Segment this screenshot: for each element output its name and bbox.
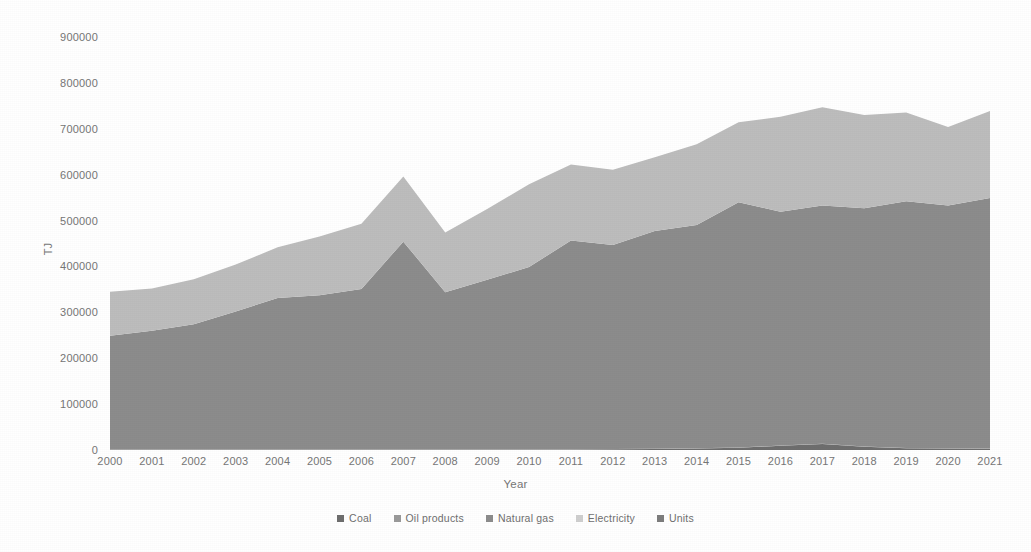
x-axis-title: Year — [0, 478, 1031, 490]
y-tick-label: 400000 — [60, 260, 98, 272]
x-tick-label: 2011 — [559, 455, 583, 467]
x-tick-label: 2016 — [768, 455, 793, 467]
x-tick-label: 2001 — [139, 455, 164, 467]
y-tick-label: 100000 — [60, 398, 98, 410]
x-axis-tick-labels: 2000200120022003200420052006200720082009… — [110, 455, 990, 473]
x-tick-label: 2020 — [935, 455, 960, 467]
legend-item-label: Units — [669, 512, 694, 524]
x-tick-label: 2004 — [265, 455, 290, 467]
plot-area — [110, 30, 990, 455]
legend-item-units[interactable]: Units — [657, 512, 694, 524]
legend-item-natural-gas[interactable]: Natural gas — [486, 512, 554, 524]
y-tick-label: 600000 — [60, 169, 98, 181]
x-tick-label: 2005 — [307, 455, 332, 467]
legend-item-label: Electricity — [588, 512, 635, 524]
legend-swatch-icon — [394, 515, 401, 522]
chart-legend: CoalOil productsNatural gasElectricityUn… — [0, 512, 1031, 524]
legend-swatch-icon — [657, 515, 664, 522]
x-tick-label: 2021 — [977, 455, 1002, 467]
x-tick-label: 2018 — [852, 455, 877, 467]
y-axis-title: TJ — [42, 234, 54, 264]
x-tick-label: 2003 — [223, 455, 248, 467]
x-tick-label: 2006 — [349, 455, 374, 467]
legend-item-oil-products[interactable]: Oil products — [394, 512, 464, 524]
legend-item-electricity[interactable]: Electricity — [576, 512, 635, 524]
legend-item-label: Coal — [349, 512, 371, 524]
y-tick-label: 800000 — [60, 77, 98, 89]
x-tick-label: 2000 — [97, 455, 122, 467]
y-tick-label: 500000 — [60, 215, 98, 227]
y-tick-label: 200000 — [60, 352, 98, 364]
legend-swatch-icon — [337, 515, 344, 522]
x-tick-label: 2014 — [684, 455, 709, 467]
x-tick-label: 2009 — [475, 455, 500, 467]
x-tick-label: 2012 — [600, 455, 625, 467]
legend-item-label: Natural gas — [498, 512, 554, 524]
x-tick-label: 2019 — [894, 455, 919, 467]
legend-item-coal[interactable]: Coal — [337, 512, 371, 524]
legend-item-label: Oil products — [406, 512, 464, 524]
y-tick-label: 700000 — [60, 123, 98, 135]
legend-swatch-icon — [486, 515, 493, 522]
x-tick-label: 2008 — [433, 455, 458, 467]
x-tick-label: 2002 — [181, 455, 206, 467]
area-chart: 0100000200000300000400000500000600000700… — [0, 0, 1031, 552]
x-tick-label: 2013 — [642, 455, 667, 467]
plot-svg — [110, 30, 990, 455]
y-tick-label: 900000 — [60, 31, 98, 43]
legend-swatch-icon — [576, 515, 583, 522]
x-tick-label: 2007 — [391, 455, 416, 467]
x-tick-label: 2017 — [810, 455, 835, 467]
y-axis-tick-labels: 0100000200000300000400000500000600000700… — [0, 0, 98, 552]
y-tick-label: 300000 — [60, 306, 98, 318]
x-tick-label: 2015 — [726, 455, 751, 467]
x-tick-label: 2010 — [516, 455, 541, 467]
